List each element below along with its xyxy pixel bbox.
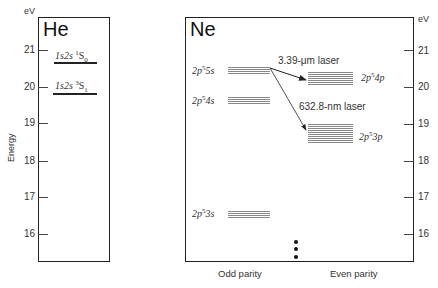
arrow-632-8nm	[270, 68, 306, 130]
laser-label-3-39um: 3.39-μm laser	[278, 55, 339, 66]
arrow-3-39um	[270, 68, 306, 80]
continuation-dot	[294, 240, 298, 244]
even-parity-label: Even parity	[330, 268, 378, 279]
continuation-dot	[294, 255, 298, 259]
transition-arrows	[0, 0, 438, 288]
laser-label-632-8nm: 632.8-nm laser	[299, 101, 366, 112]
continuation-dot	[294, 247, 298, 251]
odd-parity-label: Odd parity	[218, 268, 262, 279]
